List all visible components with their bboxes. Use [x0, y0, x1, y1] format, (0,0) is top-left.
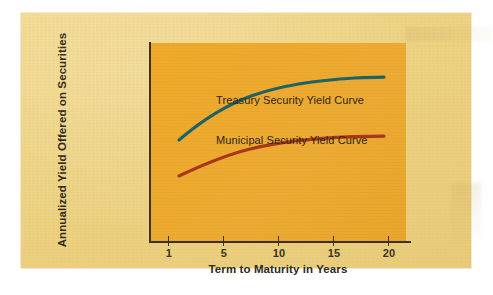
- x-tick-mark-15: [333, 236, 334, 246]
- x-tick-label-5: 5: [209, 247, 239, 259]
- x-tick-mark-10: [278, 236, 279, 246]
- x-axis-line: [149, 241, 411, 243]
- x-tick-mark-20: [388, 236, 389, 246]
- x-tick-label-10: 10: [264, 247, 294, 259]
- scanned-page-card: 1 5 10 15 20 Term to Maturity in Years A…: [21, 13, 471, 268]
- x-tick-mark-1: [168, 236, 169, 246]
- y-axis-line: [149, 42, 151, 243]
- municipal-curve-label: Municipal Security Yield Curve: [216, 134, 368, 146]
- x-tick-mark-5: [223, 236, 224, 246]
- yield-curve-figure: 1 5 10 15 20 Term to Maturity in Years A…: [21, 13, 471, 268]
- x-axis-title: Term to Maturity in Years: [150, 263, 406, 275]
- treasury-curve-label: Treasury Security Yield Curve: [216, 94, 364, 106]
- x-tick-label-20: 20: [374, 247, 404, 259]
- x-tick-label-1: 1: [154, 247, 184, 259]
- chart-screenshot: 1 5 10 15 20 Term to Maturity in Years A…: [0, 0, 493, 295]
- x-tick-label-15: 15: [319, 247, 349, 259]
- y-axis-title: Annualized Yield Offered on Securities: [56, 25, 68, 255]
- treasury-curve-line: [179, 77, 384, 140]
